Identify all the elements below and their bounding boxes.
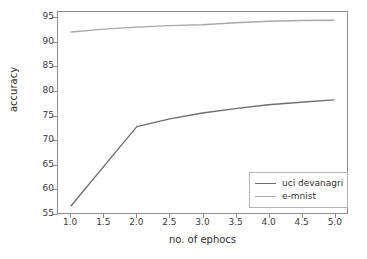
chart-legend: uci devanagrie-mnist — [249, 172, 348, 208]
x-tick-label: 2.0 — [121, 218, 151, 227]
y-tick-label: 95 — [43, 12, 54, 21]
y-tick-label: 90 — [43, 37, 54, 46]
x-tick-label: 3.0 — [188, 218, 218, 227]
series-line-1 — [71, 20, 334, 32]
x-tick-label: 2.5 — [154, 218, 184, 227]
legend-line-swatch — [255, 196, 276, 197]
y-tick-label: 70 — [43, 135, 54, 144]
legend-label: e-mnist — [282, 192, 316, 201]
legend-line-swatch — [255, 183, 276, 184]
legend-label: uci devanagri — [282, 179, 343, 188]
x-tick-label: 4.0 — [254, 218, 284, 227]
y-tick-label: 75 — [43, 111, 54, 120]
y-axis-label: accuracy — [8, 55, 19, 125]
y-tick-label: 80 — [43, 86, 54, 95]
chart-screenshot: accuracy 556065707580859095 1.01.52.02.5… — [0, 0, 367, 259]
x-tick-label: 4.5 — [287, 218, 317, 227]
y-tick-label: 65 — [43, 160, 54, 169]
x-tick-label: 1.5 — [88, 218, 118, 227]
legend-item: e-mnist — [255, 190, 342, 203]
x-tick-label: 3.5 — [221, 218, 251, 227]
x-tick-label: 1.0 — [55, 218, 85, 227]
x-tick-label: 5.0 — [320, 218, 350, 227]
y-tick-label: 55 — [43, 209, 54, 218]
x-axis-label: no. of ephocs — [57, 234, 348, 245]
y-tick-label: 85 — [43, 61, 54, 70]
legend-item: uci devanagri — [255, 177, 342, 190]
y-tick-label: 60 — [43, 184, 54, 193]
